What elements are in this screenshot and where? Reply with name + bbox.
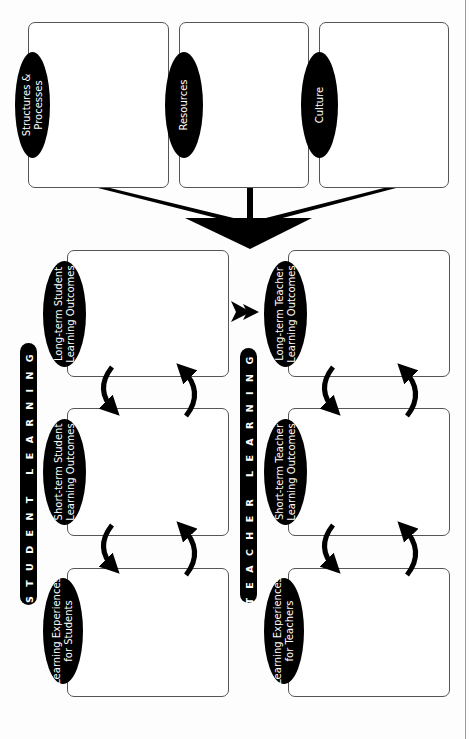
student-cycle-arrows-icon: [103, 367, 194, 575]
logic-model-diagram: Structures & Processes Resources Culture…: [0, 0, 469, 739]
double-arrowhead-icon: [231, 301, 259, 322]
connector-arrows: [0, 0, 469, 739]
converging-arrow-icon: [98, 188, 396, 249]
teacher-cycle-arrows-icon: [324, 367, 415, 575]
